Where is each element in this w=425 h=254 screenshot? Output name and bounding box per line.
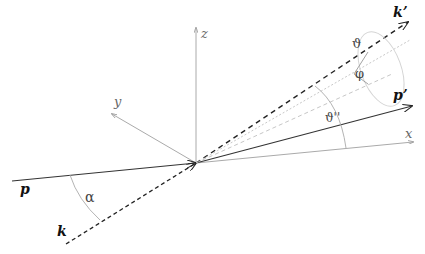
scattering-diagram: z y x p k p’ k’ α ϑ φ ϑ'' [0, 0, 425, 254]
p-prime-vector [196, 106, 412, 163]
x-axis-label: x [405, 126, 413, 141]
y-axis [112, 114, 196, 163]
phi-label: φ [355, 66, 364, 81]
theta-label: ϑ [352, 36, 361, 51]
y-axis-label: y [113, 94, 122, 109]
k-prime-vector [196, 22, 408, 163]
z-axis-label: z [200, 26, 208, 41]
k-label: k [57, 223, 67, 239]
alpha-label: α [85, 189, 95, 205]
p-vector [12, 163, 196, 181]
p-prime-label: p’ [393, 87, 408, 103]
coordinate-axes [112, 28, 413, 163]
k-direction-guide [196, 40, 410, 163]
k-prime-label: k’ [393, 4, 408, 20]
p-label: p [20, 181, 30, 197]
x-axis [196, 142, 413, 163]
theta-double-prime-label: ϑ'' [325, 111, 340, 125]
